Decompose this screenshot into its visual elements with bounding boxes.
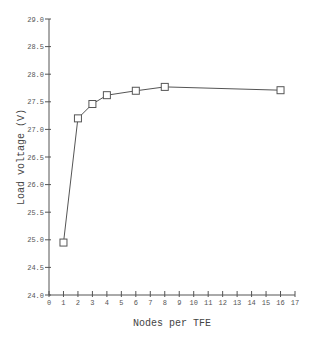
x-tick-label: 7 xyxy=(148,299,152,307)
square-marker xyxy=(60,239,67,246)
y-axis-title: Load voltage (V) xyxy=(16,109,27,205)
y-tick-label: 24.5 xyxy=(27,264,44,272)
x-tick-label: 13 xyxy=(233,299,241,307)
x-tick-label: 15 xyxy=(262,299,270,307)
x-tick-label: 4 xyxy=(105,299,109,307)
series-line xyxy=(64,87,281,243)
x-tick-label: 17 xyxy=(291,299,299,307)
x-tick-label: 5 xyxy=(119,299,123,307)
x-tick-label: 10 xyxy=(190,299,198,307)
square-marker xyxy=(74,115,81,122)
x-axis: 01234567891011121314151617 xyxy=(47,291,299,307)
data-series xyxy=(60,83,284,246)
square-marker xyxy=(277,87,284,94)
y-tick-label: 26.0 xyxy=(27,181,44,189)
y-tick-label: 28.5 xyxy=(27,43,44,51)
x-tick-label: 16 xyxy=(276,299,284,307)
x-tick-label: 11 xyxy=(204,299,212,307)
x-axis-title: Nodes per TFE xyxy=(133,318,211,329)
y-tick-label: 28.0 xyxy=(27,71,44,79)
x-tick-label: 0 xyxy=(47,299,51,307)
y-tick-label: 27.0 xyxy=(27,126,44,134)
y-tick-label: 24.0 xyxy=(27,292,44,300)
x-tick-label: 14 xyxy=(247,299,255,307)
square-marker xyxy=(132,87,139,94)
y-axis: 24.024.525.025.526.026.527.027.528.028.5… xyxy=(27,16,51,300)
y-tick-label: 26.5 xyxy=(27,154,44,162)
x-tick-label: 9 xyxy=(177,299,181,307)
x-tick-label: 2 xyxy=(76,299,80,307)
x-tick-label: 6 xyxy=(134,299,138,307)
square-marker xyxy=(103,92,110,99)
square-marker xyxy=(161,83,168,90)
line-chart: 24.024.525.025.526.026.527.027.528.028.5… xyxy=(0,0,315,346)
x-tick-label: 8 xyxy=(163,299,167,307)
y-tick-label: 27.5 xyxy=(27,98,44,106)
square-marker xyxy=(89,101,96,108)
x-tick-label: 12 xyxy=(218,299,226,307)
x-tick-label: 1 xyxy=(61,299,65,307)
y-tick-label: 25.0 xyxy=(27,236,44,244)
y-tick-label: 29.0 xyxy=(27,16,44,24)
y-tick-label: 25.5 xyxy=(27,209,44,217)
x-tick-label: 3 xyxy=(90,299,94,307)
